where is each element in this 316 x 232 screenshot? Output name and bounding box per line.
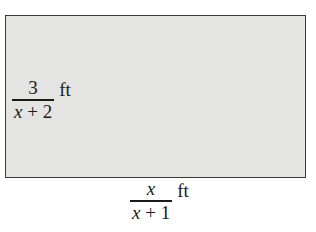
height-numerator: 3 <box>26 78 40 99</box>
width-fraction: x x + 1 <box>130 179 172 222</box>
width-denominator: x + 1 <box>130 202 172 222</box>
width-unit: ft <box>177 180 189 202</box>
height-fraction: 3 x + 2 <box>12 78 54 121</box>
height-unit: ft <box>59 79 71 101</box>
height-denominator-constant: + 2 <box>22 101 52 122</box>
width-denominator-constant: + 1 <box>140 202 170 223</box>
width-label: x x + 1 ft <box>130 179 189 222</box>
height-denominator: x + 2 <box>12 101 54 121</box>
width-numerator: x <box>145 179 157 200</box>
height-label: 3 x + 2 ft <box>12 78 71 121</box>
